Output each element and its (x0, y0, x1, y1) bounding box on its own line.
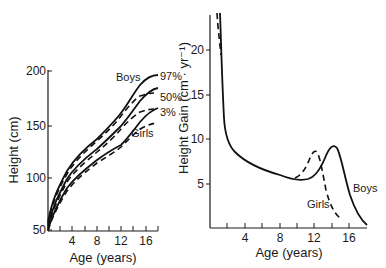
boys-50-curve (48, 88, 158, 226)
girls-velocity-curve (217, 13, 340, 218)
right-x-axis-label: Age (years) (255, 245, 322, 260)
left-ytick-100: 100 (26, 171, 46, 185)
girls-velocity-label: Girls (307, 198, 330, 210)
left-ytick-200: 200 (26, 64, 46, 78)
right-xtick-12: 12 (307, 231, 321, 245)
percentile-3-label: 3% (160, 106, 176, 118)
right-ytick-15: 15 (191, 88, 205, 102)
growth-charts: 200 150 100 50 4 8 12 16 Age (years) Hei… (0, 0, 386, 268)
girls-label: Girls (131, 127, 154, 139)
boys-velocity-label: Boys (353, 182, 378, 194)
right-ytick-5: 5 (197, 177, 204, 191)
height-chart: 200 150 100 50 4 8 12 16 Age (years) Hei… (6, 64, 182, 265)
left-ytick-50: 50 (33, 223, 47, 237)
boys-label: Boys (116, 71, 141, 83)
left-x-axis-label: Age (years) (69, 250, 136, 265)
left-xtick-8: 8 (94, 234, 101, 248)
left-xtick-12: 12 (114, 234, 128, 248)
left-y-axis-label: Height (cm) (6, 116, 21, 183)
velocity-chart: 20 15 10 5 4 8 12 16 Age (years) Height … (176, 13, 378, 260)
right-xtick-16: 16 (342, 231, 356, 245)
right-xtick-4: 4 (242, 231, 249, 245)
boys-velocity-curve (220, 13, 367, 225)
right-xtick-8: 8 (277, 231, 284, 245)
right-ytick-10: 10 (191, 132, 205, 146)
right-ytick-20: 20 (191, 43, 205, 57)
left-ytick-150: 150 (26, 119, 46, 133)
left-xtick-16: 16 (139, 234, 153, 248)
boys-97-curve (48, 75, 158, 222)
girls-97-curve (48, 93, 154, 224)
left-xtick-4: 4 (69, 234, 76, 248)
right-y-axis-label: Height Gain (cm · yr⁻¹) (176, 42, 191, 174)
